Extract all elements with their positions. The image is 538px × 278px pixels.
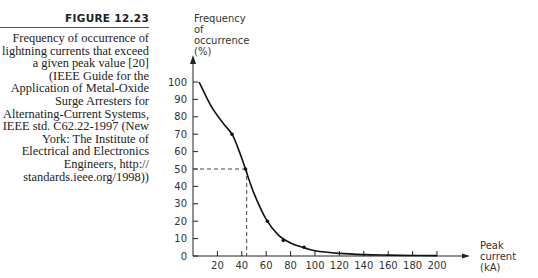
data-points [230,132,306,249]
x-axis-title: Peakcurrent(kA) [480,240,516,273]
ticks: 0102030405060708090100204060801001201401… [168,77,447,272]
data-point [244,167,248,171]
y-axis-title: Frequencyofoccurrence(%) [194,13,249,57]
x-tick-label: 100 [305,260,324,271]
x-tick-label: 180 [403,260,422,271]
y-tick-label: 70 [174,129,187,140]
axes [190,55,470,259]
y-tick-label: 50 [174,164,187,175]
x-tick-label: 60 [260,260,273,271]
data-point [230,132,234,136]
data-point [266,219,270,223]
series-line [199,82,437,256]
x-tick-label: 140 [354,260,373,271]
y-tick-label: 30 [174,198,187,209]
data-point [302,246,306,250]
x-tick-label: 80 [284,260,297,271]
y-tick-label: 40 [174,181,187,192]
reference-lines [193,169,247,256]
curve [199,82,437,256]
x-tick-label: 20 [211,260,224,271]
y-tick-label: 90 [174,94,187,105]
x-axis-title-line: Peak [480,240,504,251]
y-tick-label: 20 [174,216,187,227]
x-tick-label: 160 [379,260,398,271]
x-tick-label: 120 [330,260,349,271]
y-axis-title-line: occurrence [194,35,249,46]
y-axis-title-line: Frequency [194,13,246,24]
chart: Frequencyofoccurrence(%) Peakcurrent(kA)… [0,0,538,278]
y-axis-title-line: (%) [194,46,211,57]
x-axis-title-line: (kA) [480,262,501,273]
y-tick-label: 10 [174,233,187,244]
x-tick-label: 40 [235,260,248,271]
y-tick-label: 0 [181,251,187,262]
x-axis-arrow [462,254,470,259]
y-tick-label: 80 [174,111,187,122]
y-tick-label: 60 [174,146,187,157]
x-axis-title-line: current [480,251,516,262]
y-axis-title-line: of [194,24,204,35]
x-tick-label: 200 [427,260,446,271]
data-point [281,239,285,243]
y-tick-label: 100 [168,77,187,88]
